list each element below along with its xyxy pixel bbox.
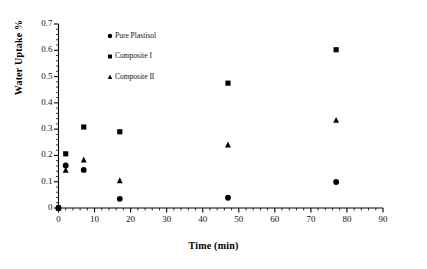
data-point-square <box>334 47 339 52</box>
x-tick-label: 90 <box>370 214 396 224</box>
x-tick-label: 60 <box>262 214 288 224</box>
data-point-circle <box>81 167 87 173</box>
data-point-circle <box>333 179 339 185</box>
legend-label-composite-i: Composite I <box>115 51 152 60</box>
water-uptake-scatter-chart: Time (min) Water Uptake % 00.10.20.30.40… <box>0 0 427 269</box>
x-tick-label: 50 <box>226 214 252 224</box>
data-point-triangle <box>81 157 87 163</box>
legend-label-pure-plastisol: Pure Plastisol <box>115 31 156 40</box>
legend-marker-circle <box>108 34 112 38</box>
legend-marker-triangle <box>108 74 112 79</box>
x-tick-label: 20 <box>118 214 144 224</box>
data-point-triangle <box>63 167 69 173</box>
x-tick-label: 0 <box>46 214 72 224</box>
data-point-square <box>63 151 68 156</box>
y-tick-label: 0.3 <box>19 123 53 133</box>
data-point-square <box>117 129 122 134</box>
y-tick-label: 0.2 <box>19 149 53 159</box>
y-tick-label: 0.5 <box>19 71 53 81</box>
y-tick-label: 0.4 <box>19 97 53 107</box>
series-composite-ii <box>56 117 339 211</box>
plot-canvas <box>0 0 427 269</box>
y-tick-label: 0.7 <box>19 18 53 28</box>
data-point-circle <box>225 195 231 201</box>
data-point-triangle <box>117 177 123 183</box>
x-tick-label: 70 <box>298 214 324 224</box>
data-point-triangle <box>333 117 339 123</box>
series-pure-plastisol <box>56 163 339 211</box>
data-point-circle <box>117 196 123 202</box>
y-tick-label: 0.6 <box>19 44 53 54</box>
y-tick-label: 0.1 <box>19 176 53 186</box>
x-tick-label: 40 <box>190 214 216 224</box>
data-point-square <box>225 81 230 86</box>
legend-marker-square <box>108 55 112 59</box>
x-tick-label: 30 <box>154 214 180 224</box>
data-point-square <box>81 124 86 129</box>
series-composite-i <box>56 47 339 210</box>
legend-label-composite-ii: Composite II <box>115 72 154 81</box>
x-tick-label: 10 <box>82 214 108 224</box>
x-tick-label: 80 <box>334 214 360 224</box>
legend <box>108 34 112 79</box>
x-axis-ticks <box>59 208 384 213</box>
y-tick-label: 0 <box>19 202 53 212</box>
x-axis-title: Time (min) <box>0 240 427 251</box>
data-point-triangle <box>225 142 231 148</box>
y-axis-ticks <box>54 24 59 208</box>
